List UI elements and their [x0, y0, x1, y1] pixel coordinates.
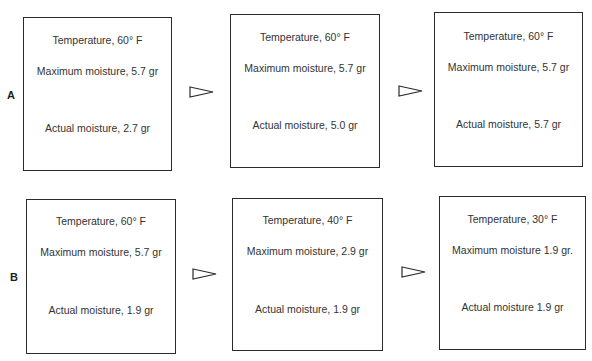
state-box-b3: Temperature, 30° F Maximum moisture 1.9 … [439, 196, 586, 350]
arrow-right-outline-icon [192, 268, 218, 280]
actual-moisture-label: Actual moisture, 1.9 gr [233, 303, 382, 315]
arrow-right-outline-icon [401, 266, 427, 278]
state-box-b1: Temperature, 60° F Maximum moisture, 5.7… [26, 199, 176, 354]
maximum-moisture-label: Maximum moisture, 5.7 gr [435, 61, 582, 73]
row-label-b: B [10, 271, 18, 283]
actual-moisture-label: Actual moisture 1.9 gr [440, 301, 585, 313]
temperature-label: Temperature, 40° F [233, 214, 382, 226]
maximum-moisture-label: Maximum moisture 1.9 gr. [440, 244, 585, 256]
actual-moisture-label: Actual moisture, 5.7 gr [435, 118, 582, 130]
actual-moisture-label: Actual moisture, 5.0 gr [231, 119, 379, 131]
state-box-a3: Temperature, 60° F Maximum moisture, 5.7… [434, 12, 583, 167]
state-box-a1: Temperature, 60° F Maximum moisture, 5.7… [23, 17, 172, 171]
arrow-right-outline-icon [398, 85, 424, 97]
maximum-moisture-label: Maximum moisture, 2.9 gr [233, 245, 382, 257]
maximum-moisture-label: Maximum moisture, 5.7 gr [24, 65, 171, 77]
state-box-a2: Temperature, 60° F Maximum moisture, 5.7… [230, 14, 380, 168]
maximum-moisture-label: Maximum moisture, 5.7 gr [231, 62, 379, 74]
actual-moisture-label: Actual moisture, 2.7 gr [24, 122, 171, 134]
maximum-moisture-label: Maximum moisture, 5.7 gr [27, 246, 175, 258]
temperature-label: Temperature, 60° F [24, 34, 171, 46]
temperature-label: Temperature, 60° F [435, 30, 582, 42]
actual-moisture-label: Actual moisture, 1.9 gr [27, 304, 175, 316]
temperature-label: Temperature, 60° F [27, 215, 175, 227]
row-label-a: A [7, 89, 15, 101]
state-box-b2: Temperature, 40° F Maximum moisture, 2.9… [232, 198, 383, 351]
arrow-right-outline-icon [189, 86, 215, 98]
temperature-label: Temperature, 30° F [440, 213, 585, 225]
temperature-label: Temperature, 60° F [231, 31, 379, 43]
